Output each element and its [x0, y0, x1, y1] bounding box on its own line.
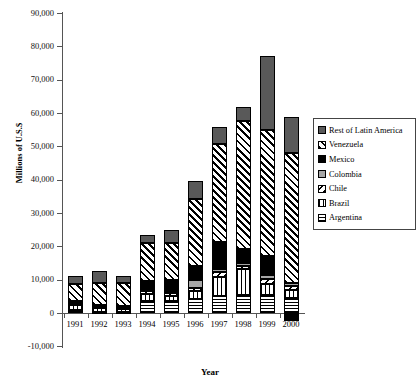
bar-segment: [164, 230, 179, 243]
y-axis-ticks: 90,00080,00070,00060,00050,00040,00030,0…: [0, 0, 58, 383]
y-tick-label: 80,000: [31, 42, 54, 51]
bar-stack: [260, 0, 275, 383]
bar-segment: [236, 295, 251, 313]
legend-item[interactable]: Mexico: [318, 152, 412, 167]
bar-segment: [68, 276, 83, 284]
y-tick-label: 90,000: [31, 9, 54, 18]
legend-item[interactable]: Colombia: [318, 167, 412, 182]
bar-segment: [68, 305, 83, 310]
bar-stack: [68, 0, 83, 383]
y-tick-mark: [57, 146, 62, 147]
bar-segment: [140, 243, 155, 281]
bar-segment: [188, 266, 203, 280]
bar-segment: [68, 301, 83, 303]
legend-item[interactable]: Brazil: [318, 196, 412, 211]
bar-segment: [116, 283, 131, 306]
y-tick-label: -10,000: [28, 342, 54, 351]
y-tick-label: 70,000: [31, 75, 54, 84]
bar-segment: [284, 298, 299, 313]
y-tick-label: 20,000: [31, 242, 54, 251]
bar-segment: [164, 301, 179, 313]
bar-segment: [236, 107, 251, 121]
bar-segment: [140, 235, 155, 244]
y-tick-label: 10,000: [31, 275, 54, 284]
bar-segment: [260, 130, 275, 256]
legend-item[interactable]: Rest of Latin America: [318, 123, 412, 138]
bar-segment: [212, 269, 227, 272]
x-tick-mark: [136, 313, 137, 318]
bar-segment: [92, 271, 107, 282]
bar-segment: [236, 121, 251, 250]
bar-segment: [284, 117, 299, 153]
bar-segment: [236, 249, 251, 262]
bar-segment: [284, 313, 299, 321]
legend-label: Rest of Latin America: [329, 126, 403, 135]
x-tick-mark: [184, 313, 185, 318]
black-swatch: [318, 155, 326, 163]
y-tick-label: 30,000: [31, 209, 54, 218]
bar-segment: [260, 256, 275, 274]
y-tick-mark: [57, 113, 62, 114]
bar-segment: [140, 291, 155, 294]
bar-segment: [212, 277, 227, 296]
bar-segment: [260, 284, 275, 295]
y-tick-label: 60,000: [31, 109, 54, 118]
legend-label: Brazil: [329, 199, 349, 208]
bar-segment: [236, 263, 251, 266]
bar-segment: [284, 286, 299, 290]
legend-item[interactable]: Argentina: [318, 211, 412, 226]
x-tick-mark: [232, 313, 233, 318]
bar-segment: [164, 243, 179, 280]
bar-segment: [284, 153, 299, 282]
x-tick-mark: [160, 313, 161, 318]
diagonal-up-swatch: [318, 141, 326, 149]
bar-stack: [140, 0, 155, 383]
y-tick-mark: [57, 313, 62, 314]
y-tick-label: 40,000: [31, 175, 54, 184]
legend-item[interactable]: Venezuela: [318, 138, 412, 153]
bar-segment: [260, 56, 275, 130]
x-axis-title: Year: [0, 367, 420, 377]
bar-segment: [212, 272, 227, 277]
bar-segment: [92, 283, 107, 305]
bar-segment: [140, 289, 155, 291]
dark-gray-swatch: [318, 126, 326, 134]
y-axis-title: Millions of U.S.$: [14, 98, 24, 208]
bar-segment: [260, 279, 275, 284]
legend-label: Chile: [329, 184, 347, 193]
y-tick-label: 0: [50, 309, 54, 318]
bar-segment: [260, 275, 275, 279]
legend-label: Argentina: [329, 213, 362, 222]
legend-item[interactable]: Chile: [318, 181, 412, 196]
bar-segment: [188, 181, 203, 199]
y-tick-mark: [57, 280, 62, 281]
gray-swatch: [318, 170, 326, 178]
bar-segment: [212, 296, 227, 313]
bar-segment: [68, 310, 83, 313]
bar-segment: [236, 266, 251, 269]
x-tick-mark: [88, 313, 89, 318]
bar-stack: [92, 0, 107, 383]
diagonal-down-swatch: [318, 185, 326, 193]
x-tick-mark: [280, 313, 281, 318]
bar-segment: [212, 242, 227, 269]
bar-segment: [116, 276, 131, 283]
x-tick-mark: [256, 313, 257, 318]
bar-segment: [188, 291, 203, 299]
x-tick-mark: [64, 313, 65, 318]
x-tick-mark: [112, 313, 113, 318]
bar-segment: [164, 293, 179, 296]
x-tick-mark: [208, 313, 209, 318]
legend-label: Colombia: [329, 170, 362, 179]
y-tick-mark: [57, 46, 62, 47]
bar-segment: [68, 284, 83, 301]
bar-segment: [164, 291, 179, 293]
bar-segment: [140, 301, 155, 313]
bar-segment: [164, 296, 179, 301]
bar-segment: [212, 144, 227, 242]
legend-label: Mexico: [329, 155, 354, 164]
bar-segment: [116, 306, 131, 308]
bar-segment: [212, 127, 227, 144]
bar-stack: [236, 0, 251, 383]
bar-segment: [188, 288, 203, 291]
